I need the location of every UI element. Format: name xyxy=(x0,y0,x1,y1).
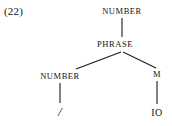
tree-terminal-io: IO xyxy=(151,107,162,118)
tree-node-phrase: PHRASE xyxy=(97,39,133,49)
tree-edge-phrase-m xyxy=(123,52,156,68)
figure-canvas: (22) NUMBER PHRASE NUMBER M / IO xyxy=(0,0,172,126)
tree-node-number: NUMBER xyxy=(40,71,80,81)
tree-node-m: M xyxy=(153,69,161,79)
tree-node-root-number: NUMBER xyxy=(102,6,142,16)
tree-edge-phrase-number xyxy=(76,52,121,69)
tree-edges-layer xyxy=(0,0,172,126)
tree-terminal-slash: / xyxy=(58,104,62,120)
